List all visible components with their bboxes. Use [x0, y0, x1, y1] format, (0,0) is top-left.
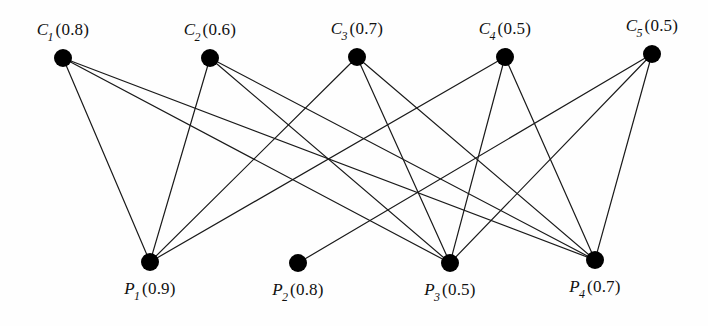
node-label-c3: C3(0.7)	[331, 19, 383, 42]
node-label-c5: C5(0.5)	[626, 16, 678, 39]
edge-layer	[63, 54, 652, 263]
node-label-c1: C1(0.8)	[37, 20, 89, 43]
graph-edge	[450, 54, 652, 263]
bipartite-graph-figure: C1(0.8)C2(0.6)C3(0.7)C4(0.5)C5(0.5)P1(0.…	[0, 0, 708, 326]
graph-node-p1[interactable]	[141, 253, 159, 271]
node-symbol: P	[424, 280, 435, 299]
node-label-p2: P2(0.8)	[272, 280, 323, 303]
node-label-c2: C2(0.6)	[184, 20, 236, 43]
node-value: (0.7)	[587, 277, 621, 296]
node-value: (0.8)	[56, 20, 90, 39]
node-symbol: C	[37, 20, 49, 39]
graph-edge	[450, 57, 505, 263]
node-value: (0.7)	[350, 19, 384, 38]
graph-node-p3[interactable]	[441, 254, 459, 272]
node-label-p1: P1(0.9)	[124, 279, 175, 302]
node-subscript: 1	[134, 289, 140, 303]
graph-edge	[150, 58, 210, 262]
graph-node-c2[interactable]	[201, 49, 219, 67]
node-subscript: 4	[579, 287, 585, 301]
node-value: (0.5)	[498, 19, 532, 38]
node-value: (0.9)	[142, 279, 176, 298]
node-subscript: 1	[47, 30, 53, 44]
graph-edge	[150, 57, 357, 262]
graph-node-p4[interactable]	[586, 251, 604, 269]
node-value: (0.5)	[442, 280, 476, 299]
graph-edge	[357, 57, 450, 263]
graph-edge	[63, 58, 150, 262]
graph-node-c4[interactable]	[496, 48, 514, 66]
node-value: (0.5)	[645, 16, 679, 35]
graph-node-p2[interactable]	[289, 254, 307, 272]
node-value: (0.6)	[203, 20, 237, 39]
graph-edge	[595, 54, 652, 260]
node-value: (0.8)	[290, 280, 324, 299]
node-symbol: P	[272, 280, 283, 299]
node-subscript: 3	[341, 29, 347, 43]
node-subscript: 5	[636, 26, 642, 40]
node-symbol: C	[331, 19, 343, 38]
node-subscript: 2	[194, 30, 200, 44]
node-symbol: P	[569, 277, 580, 296]
graph-node-c1[interactable]	[54, 49, 72, 67]
node-symbol: P	[124, 279, 135, 298]
node-symbol: C	[479, 19, 491, 38]
graph-edge	[298, 54, 652, 263]
graph-edge	[150, 57, 505, 262]
node-symbol: C	[626, 16, 638, 35]
graph-edge	[505, 57, 595, 260]
graph-edge	[63, 58, 450, 263]
node-label-c4: C4(0.5)	[479, 19, 531, 42]
node-label-p3: P3(0.5)	[424, 280, 475, 303]
node-subscript: 4	[489, 29, 495, 43]
node-subscript: 2	[282, 290, 288, 304]
node-symbol: C	[184, 20, 196, 39]
graph-node-c5[interactable]	[643, 45, 661, 63]
graph-node-c3[interactable]	[348, 48, 366, 66]
graph-edge	[210, 58, 450, 263]
node-subscript: 3	[434, 290, 440, 304]
node-label-p4: P4(0.7)	[569, 277, 620, 300]
